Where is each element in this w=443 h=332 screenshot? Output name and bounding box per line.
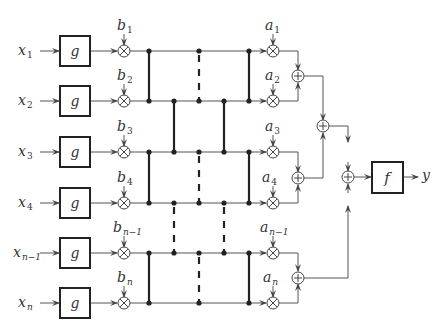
weight-label-a4: a4 (262, 170, 277, 187)
weight-label-bn-1: bn−1 (113, 220, 142, 237)
weight-label-a1: a1 (265, 18, 280, 35)
input-label-x1: x1 (18, 43, 33, 60)
g-block-label: g (60, 195, 90, 211)
g-block-label: g (60, 245, 90, 261)
output-label-y: y (422, 168, 430, 182)
weight-label-b1: b1 (117, 18, 133, 35)
block-diagram: x1 x2 x3 x4 xn−1 xn g g g g g g b1 b2 b3… (0, 0, 443, 332)
weight-label-b2: b2 (117, 68, 133, 85)
weight-label-an-1: an−1 (260, 220, 288, 237)
g-block-label: g (60, 93, 90, 109)
input-label-xn-1: xn−1 (13, 245, 41, 262)
input-label-x4: x4 (18, 195, 33, 212)
weight-label-bn: bn (117, 270, 133, 287)
g-block-label: g (60, 43, 90, 59)
g-block-label: g (60, 295, 90, 311)
input-label-xn: xn (18, 295, 33, 312)
weight-label-b4: b4 (117, 170, 133, 187)
weight-label-b3: b3 (117, 119, 133, 136)
g-block-label: g (60, 144, 90, 160)
f-block-label: f (372, 169, 402, 187)
weight-label-a3: a3 (265, 119, 280, 136)
weight-label-a2: a2 (265, 68, 280, 85)
weight-label-an: an (263, 270, 278, 287)
input-label-x2: x2 (18, 93, 33, 110)
input-label-x3: x3 (18, 144, 33, 161)
